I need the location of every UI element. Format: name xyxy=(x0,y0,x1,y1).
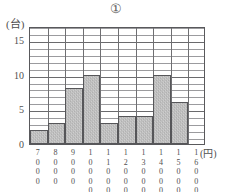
y-axis-tick-label: 10 xyxy=(0,71,24,81)
gridline-minor xyxy=(30,49,204,50)
x-axis-tick-label: 12000 xyxy=(119,148,133,192)
x-tick-digit: 0 xyxy=(84,186,98,192)
x-tick-digit: 0 xyxy=(31,177,45,187)
x-tick-digit: 0 xyxy=(189,177,203,187)
histogram-figure: ① (台) (円) 051015 70008000900010000110001… xyxy=(0,0,231,192)
gridline-minor xyxy=(30,97,204,98)
y-axis-tick-label: 5 xyxy=(0,105,24,115)
x-tick-digit: 0 xyxy=(136,177,150,187)
x-axis-tick-label: 11000 xyxy=(101,148,115,192)
x-tick-digit: 0 xyxy=(101,177,115,187)
x-tick-digit: 0 xyxy=(119,186,133,192)
bar xyxy=(100,123,118,144)
y-axis-tick-label: 0 xyxy=(0,140,24,150)
y-axis-tick-label: 15 xyxy=(0,36,24,46)
x-tick-digit: 0 xyxy=(119,167,133,177)
bar xyxy=(171,102,189,144)
y-axis-unit-label: (台) xyxy=(6,18,24,30)
x-tick-digit: 7 xyxy=(31,148,45,158)
x-tick-digit: 0 xyxy=(48,158,62,168)
x-tick-digit: 0 xyxy=(31,167,45,177)
x-tick-digit: 0 xyxy=(154,167,168,177)
x-tick-digit: 0 xyxy=(101,186,115,192)
x-tick-digit: 1 xyxy=(119,148,133,158)
x-tick-digit: 0 xyxy=(189,167,203,177)
x-tick-digit: 1 xyxy=(172,148,186,158)
x-axis-tick-label: 13000 xyxy=(136,148,150,192)
x-tick-digit: 0 xyxy=(189,186,203,192)
x-tick-digit: 2 xyxy=(119,158,133,168)
bar xyxy=(136,116,154,144)
bar xyxy=(118,116,136,144)
x-tick-digit: 1 xyxy=(84,148,98,158)
x-tick-digit: 0 xyxy=(136,167,150,177)
gridline-minor xyxy=(30,28,204,29)
gridline-vertical xyxy=(188,28,189,144)
x-tick-digit: 9 xyxy=(66,148,80,158)
bar xyxy=(65,88,83,144)
x-tick-digit: 0 xyxy=(48,177,62,187)
x-tick-digit: 0 xyxy=(101,167,115,177)
x-tick-digit: 0 xyxy=(119,177,133,187)
x-tick-digit: 0 xyxy=(172,186,186,192)
x-tick-digit: 5 xyxy=(172,158,186,168)
x-tick-digit: 0 xyxy=(172,167,186,177)
x-tick-digit: 4 xyxy=(154,158,168,168)
x-axis-tick-label: 14000 xyxy=(154,148,168,192)
x-tick-digit: 0 xyxy=(84,158,98,168)
plot-area xyxy=(29,27,205,145)
x-axis-tick-label: 9000 xyxy=(66,148,80,186)
x-tick-digit: 1 xyxy=(154,148,168,158)
x-tick-digit: 1 xyxy=(101,148,115,158)
x-axis-tick-label: 10000 xyxy=(84,148,98,192)
chart-title: ① xyxy=(0,2,231,16)
x-tick-digit: 0 xyxy=(84,167,98,177)
x-tick-digit: 0 xyxy=(48,167,62,177)
x-tick-digit: 0 xyxy=(136,186,150,192)
x-tick-digit: 0 xyxy=(154,186,168,192)
gridline-minor xyxy=(30,56,204,57)
gridline-minor xyxy=(30,84,204,85)
x-tick-digit: 0 xyxy=(154,177,168,187)
x-tick-digit: 0 xyxy=(31,158,45,168)
bar xyxy=(83,75,101,144)
x-axis-tick-label: 8000 xyxy=(48,148,62,186)
gridline-minor xyxy=(30,63,204,64)
x-tick-digit: 6 xyxy=(189,158,203,168)
x-axis-tick-label: 15000 xyxy=(172,148,186,192)
x-tick-digit: 0 xyxy=(66,177,80,187)
bar xyxy=(153,75,171,144)
plot-inner xyxy=(30,28,204,144)
gridline-major xyxy=(30,77,204,78)
x-tick-digit: 3 xyxy=(136,158,150,168)
gridline-minor xyxy=(30,35,204,36)
x-axis-tick-label: 16000 xyxy=(189,148,203,192)
x-tick-digit: 0 xyxy=(66,167,80,177)
x-tick-digit: 1 xyxy=(136,148,150,158)
x-tick-digit: 8 xyxy=(48,148,62,158)
gridline-major xyxy=(30,42,204,43)
gridline-minor xyxy=(30,90,204,91)
x-tick-digit: 1 xyxy=(189,148,203,158)
x-tick-digit: 0 xyxy=(66,158,80,168)
x-tick-digit: 1 xyxy=(101,158,115,168)
x-tick-digit: 0 xyxy=(172,177,186,187)
x-tick-digit: 0 xyxy=(84,177,98,187)
gridline-minor xyxy=(30,70,204,71)
x-axis-tick-label: 7000 xyxy=(31,148,45,186)
bar xyxy=(30,130,48,144)
bar xyxy=(48,123,66,144)
